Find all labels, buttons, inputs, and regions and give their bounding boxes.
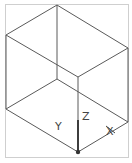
y-axis-label: Y — [54, 120, 62, 133]
axis-labels: Y Z X — [0, 0, 132, 163]
z-axis-label: Z — [82, 110, 90, 123]
x-axis-label: X — [106, 125, 114, 138]
3d-viewport[interactable]: Y Z X — [0, 0, 132, 163]
